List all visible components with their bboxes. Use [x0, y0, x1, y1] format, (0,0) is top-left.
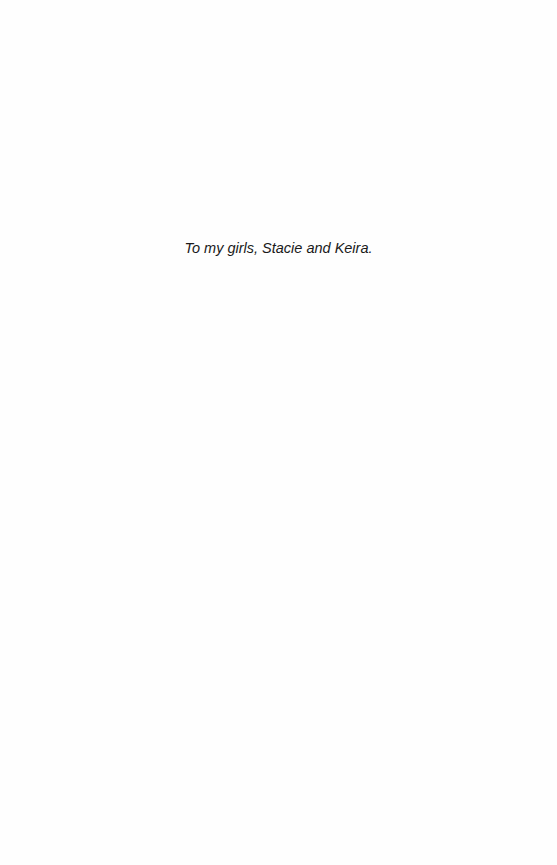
- dedication-text: To my girls, Stacie and Keira.: [0, 239, 557, 257]
- book-page: To my girls, Stacie and Keira.: [0, 0, 557, 865]
